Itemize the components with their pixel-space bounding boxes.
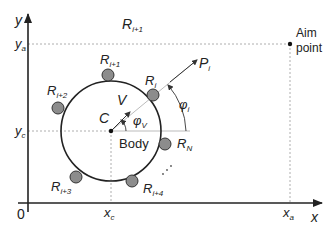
robot-label-ri-plus-4: Ri+4 xyxy=(143,182,163,198)
yc-label: yc xyxy=(15,124,26,140)
xa-label: xa xyxy=(283,206,294,222)
y-axis-label: y xyxy=(15,13,22,27)
diagram-canvas xyxy=(0,0,333,232)
velocity-angle-label: φV xyxy=(133,114,147,130)
velocity-vector xyxy=(111,112,130,131)
direction-arrow-pi xyxy=(170,60,197,82)
xc-label: xc xyxy=(104,206,115,222)
robot-label-ri-plus-3: Ri+3 xyxy=(51,180,71,196)
aim-point-dot xyxy=(288,42,292,46)
robot-label-ri: Ri xyxy=(145,74,156,90)
robot-ri-plus-2 xyxy=(52,102,64,114)
ya-label: ya xyxy=(15,37,26,53)
center-point xyxy=(109,129,113,133)
aim-point-label: Aim point xyxy=(296,26,322,56)
robot-ri-plus-4 xyxy=(126,175,138,187)
robot-ri-plus-3 xyxy=(70,171,82,183)
velocity-label: V xyxy=(117,93,126,107)
ellipsis-dots xyxy=(162,165,172,175)
origin-label: 0 xyxy=(17,207,25,221)
direction-label: Pi xyxy=(199,56,210,73)
robot-rn xyxy=(159,138,171,150)
robot-label-ri-plus-1: Ri+1 xyxy=(100,53,120,69)
robot-ri-plus-1 xyxy=(102,69,114,81)
robot-label-ri-plus-2: Ri+2 xyxy=(47,84,67,100)
body-label: Body xyxy=(119,137,149,150)
x-axis-label: x xyxy=(311,210,318,224)
robot-ri xyxy=(147,89,159,101)
center-label: C xyxy=(99,111,109,125)
direction-angle-label: φi xyxy=(179,98,189,114)
robot-label-rn: RN xyxy=(177,137,192,153)
region-label: Ri+1 xyxy=(122,17,143,34)
